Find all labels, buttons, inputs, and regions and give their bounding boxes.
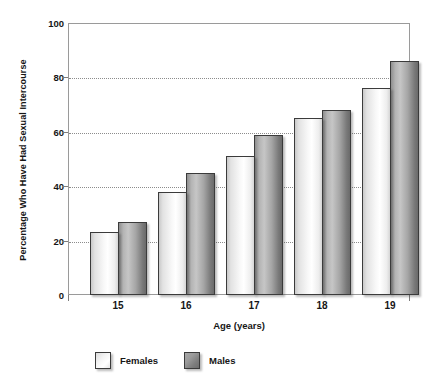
bar-males-15	[118, 222, 147, 295]
bar-males-17	[254, 135, 283, 296]
legend-swatch-females-icon	[95, 352, 111, 369]
bar-group-19	[362, 23, 419, 295]
chart-legend: Females Males	[95, 349, 235, 371]
legend-item-females: Females	[95, 352, 158, 369]
x-axis-title: Age (years)	[68, 320, 410, 331]
bar-females-17	[226, 156, 255, 295]
y-tick-label-40: 40	[8, 181, 64, 192]
x-tick-label-18: 18	[292, 300, 352, 311]
bar-chart: Percentage Who Have Had Sexual Intercour…	[0, 0, 427, 385]
bar-group-17	[226, 23, 283, 295]
bar-groups	[68, 23, 410, 295]
legend-label-females: Females	[120, 355, 158, 366]
x-axis-ticks: 15 16 17 18 19	[68, 300, 410, 318]
bar-group-18	[294, 23, 351, 295]
legend-label-males: Males	[209, 355, 235, 366]
y-tick-label-60: 60	[8, 126, 64, 137]
legend-item-males: Males	[184, 352, 235, 369]
bar-males-16	[186, 173, 215, 295]
y-axis-ticks: 100 80 60 40 20 0	[0, 23, 64, 295]
bar-females-16	[158, 192, 187, 295]
bar-males-18	[322, 110, 351, 295]
x-tick-label-16: 16	[156, 300, 216, 311]
bar-females-18	[294, 118, 323, 295]
y-tick-label-100: 100	[8, 18, 64, 29]
legend-swatch-males-icon	[184, 352, 200, 369]
x-tick-label-19: 19	[360, 300, 420, 311]
bar-females-15	[90, 232, 119, 295]
x-tick-label-15: 15	[88, 300, 148, 311]
bar-group-16	[158, 23, 215, 295]
y-tick-label-20: 20	[8, 235, 64, 246]
y-tick-label-0: 0	[8, 290, 64, 301]
bar-females-19	[362, 88, 391, 295]
bar-males-19	[390, 61, 419, 295]
x-tick-label-17: 17	[224, 300, 284, 311]
bar-group-15	[90, 23, 147, 295]
y-tick-label-80: 80	[8, 72, 64, 83]
